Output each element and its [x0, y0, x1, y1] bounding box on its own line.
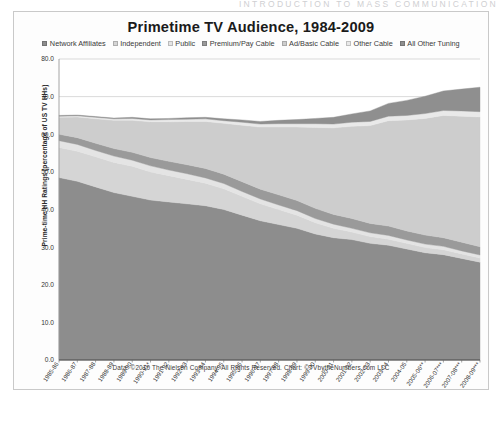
chart-source-note: Data: ©2010 The Nielsen Company. All Rig…: [14, 364, 488, 371]
plot-area: 0.010.020.030.040.050.060.070.080.01985-…: [14, 12, 490, 391]
running-head: INTRODUCTION TO MASS COMMUNICATION: [0, 0, 502, 9]
y-axis-title: Prime-time HH Ratings (percentage of US …: [41, 78, 48, 253]
chart-frame: Primetime TV Audience, 1984-2009 Network…: [13, 11, 489, 390]
y-axis-tick-label: 80.0: [41, 55, 54, 62]
y-axis-tick-label: 10.0: [41, 319, 54, 326]
stacked-area-plot: 0.010.020.030.040.050.060.070.080.01985-…: [14, 12, 490, 391]
page-root: INTRODUCTION TO MASS COMMUNICATION Prime…: [0, 0, 502, 438]
y-axis-tick-label: 20.0: [41, 281, 54, 288]
